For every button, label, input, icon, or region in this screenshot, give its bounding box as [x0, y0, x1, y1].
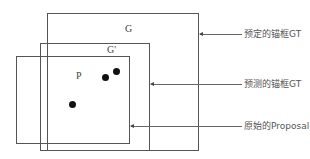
- data-point: [69, 101, 76, 108]
- annotation-predefined-anchor-gt: 预定的锚框GT: [244, 29, 301, 39]
- arrow-to-p: [131, 126, 242, 127]
- arrow-to-g-prime: [151, 84, 242, 85]
- annotation-predicted-anchor-gt: 预测的锚框GT: [244, 79, 301, 89]
- arrow-to-g: [200, 34, 242, 35]
- label-p: P: [76, 71, 82, 81]
- label-g-prime: G': [107, 45, 116, 55]
- annotation-original-proposal: 原始的Proposal: [244, 121, 309, 131]
- label-g: G: [125, 24, 132, 34]
- data-point: [113, 68, 120, 75]
- data-point: [102, 74, 109, 81]
